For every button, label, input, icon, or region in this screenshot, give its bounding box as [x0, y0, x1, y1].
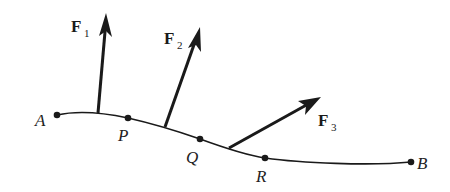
point-p — [125, 115, 132, 122]
path-curve — [57, 113, 411, 164]
label-q: Q — [186, 148, 198, 167]
svg-text:F: F — [164, 29, 174, 48]
svg-text:2: 2 — [177, 39, 183, 51]
label-f1: F 1 — [71, 17, 90, 39]
force-vector-f3 — [229, 97, 321, 148]
label-r: R — [255, 167, 267, 186]
svg-text:3: 3 — [331, 121, 337, 133]
label-p: P — [117, 126, 128, 145]
svg-text:F: F — [318, 111, 328, 130]
force-vector-f1 — [98, 13, 112, 113]
label-a: A — [34, 111, 46, 130]
point-q — [197, 136, 204, 143]
svg-text:F: F — [71, 17, 81, 36]
point-b — [408, 159, 415, 166]
arrowhead-icon — [188, 27, 201, 52]
point-r — [262, 155, 269, 162]
force-path-diagram: A P Q R B F 1 F 2 F 3 — [0, 0, 450, 192]
svg-text:1: 1 — [84, 27, 90, 39]
point-a — [54, 112, 61, 119]
label-f3: F 3 — [318, 111, 337, 133]
label-b: B — [417, 154, 428, 173]
label-f2: F 2 — [164, 29, 183, 51]
